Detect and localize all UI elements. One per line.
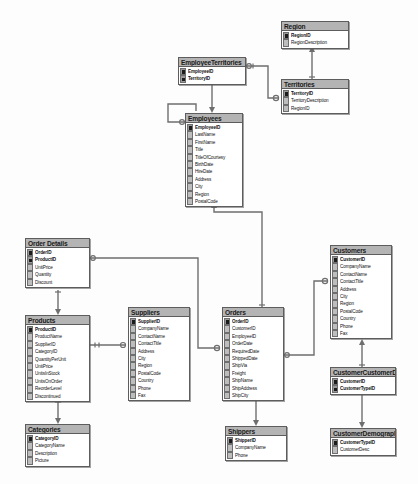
field-row[interactable]: ContactTitle [130,340,188,347]
field-row[interactable]: Country [332,315,390,322]
field-row[interactable]: ProductName [27,333,88,340]
field-row[interactable]: ProductID [27,256,88,263]
field-row[interactable]: UnitsOnOrder [27,378,88,385]
field-row[interactable]: TerritoryID [180,75,244,82]
field-name: Freight [232,370,282,377]
field-row[interactable]: EmployeeID [180,68,244,75]
table-customer_demographics[interactable]: CustomerDemographicsCustomerTypeIDCustom… [330,428,396,456]
table-employee_territories[interactable]: EmployeeTerritoriesEmployeeIDTerritoryID [178,57,246,85]
field-row[interactable]: EmployeeID [187,124,241,131]
field-row[interactable]: CustomerDesc [332,446,394,453]
field-row[interactable]: Phone [227,452,285,459]
table-shippers[interactable]: ShippersShipperIDCompanyNamePhone [225,426,287,461]
field-row[interactable]: UnitsInStock [27,370,88,377]
field-row[interactable]: ContactTitle [332,278,390,285]
field-row[interactable]: City [130,355,188,362]
field-row[interactable]: ShipCity [224,392,282,399]
field-name: PostalCode [195,198,241,205]
field-row[interactable]: CustomerID [332,256,390,263]
connector-customercustomerdemo-customerdemographics [359,392,365,428]
field-row[interactable]: Address [187,176,241,183]
field-row[interactable]: CustomerTypeID [332,439,394,446]
table-products[interactable]: ProductsProductIDProductNameSupplierIDCa… [25,315,90,402]
table-customer_customer_demo[interactable]: CustomerCustomerDemoCustomerIDCustomerTy… [330,367,396,395]
field-row[interactable]: SupplierID [130,318,188,325]
field-row[interactable]: RegionDescription [283,39,347,46]
field-row[interactable]: QuantityPerUnit [27,356,88,363]
table-orders[interactable]: OrdersOrderIDCustomerIDEmployeeIDOrderDa… [222,307,284,401]
table-territories[interactable]: TerritoriesTerritoryIDTerritoryDescripti… [281,79,349,114]
field-row[interactable]: City [187,183,241,190]
field-row[interactable]: RequiredDate [224,348,282,355]
field-row[interactable]: Region [187,191,241,198]
field-row[interactable]: OrderDate [224,340,282,347]
field-name: UnitsOnOrder [35,378,88,385]
table-categories[interactable]: CategoriesCategoryIDCategoryNameDescript… [25,424,90,467]
field-row[interactable]: ShipVia [224,362,282,369]
field-row[interactable]: Phone [130,385,188,392]
field-row[interactable]: LastName [187,131,241,138]
field-row[interactable]: Phone [332,323,390,330]
field-row[interactable]: Address [130,348,188,355]
field-row[interactable]: UnitPrice [27,264,88,271]
table-employees[interactable]: EmployeesEmployeeIDLastNameFirstNameTitl… [185,113,243,207]
field-row[interactable]: CategoryName [27,442,88,449]
field-row[interactable]: ShipAddress [224,385,282,392]
field-row[interactable]: EmployeeID [224,333,282,340]
field-row[interactable]: Freight [224,370,282,377]
field-row[interactable]: CustomerTypeID [332,385,394,392]
field-row[interactable]: OrderID [224,318,282,325]
field-row[interactable]: RegionID [283,105,347,112]
field-row[interactable]: ShippedDate [224,355,282,362]
field-row[interactable]: ShipperID [227,437,285,444]
field-row[interactable]: CustomerID [332,378,394,385]
field-name: CategoryID [35,348,88,355]
table-order_details[interactable]: Order DetailsOrderIDProductIDUnitPriceQu… [25,238,90,288]
field-marker-icon [224,385,230,392]
table-suppliers[interactable]: SuppliersSupplierIDCompanyNameContactNam… [128,307,190,401]
field-row[interactable]: SupplierID [27,341,88,348]
field-row[interactable]: Country [130,377,188,384]
field-row[interactable]: TerritoryID [283,90,347,97]
field-row[interactable]: BirthDate [187,161,241,168]
field-row[interactable]: UnitPrice [27,363,88,370]
field-row[interactable]: TerritoryDescription [283,97,347,104]
field-row[interactable]: CustomerID [224,325,282,332]
field-row[interactable]: HireDate [187,168,241,175]
field-row[interactable]: ShipName [224,377,282,384]
field-row[interactable]: Title [187,146,241,153]
field-row[interactable]: Quantity [27,271,88,278]
primary-key-icon [130,318,136,325]
field-row[interactable]: FirstName [187,139,241,146]
table-region[interactable]: RegionRegionIDRegionDescription [281,21,349,49]
field-row[interactable]: Region [130,362,188,369]
field-row[interactable]: RegionID [283,32,347,39]
field-row[interactable]: Fax [332,330,390,337]
field-row[interactable]: CompanyName [332,263,390,270]
field-row[interactable]: City [332,293,390,300]
field-row[interactable]: Discount [27,279,88,286]
field-row[interactable]: PostalCode [130,370,188,377]
field-row[interactable]: TitleOfCourtesy [187,154,241,161]
field-row[interactable]: CategoryID [27,435,88,442]
field-row[interactable]: CompanyName [130,325,188,332]
field-row[interactable]: PostalCode [187,198,241,205]
field-row[interactable]: OrderID [27,249,88,256]
field-row[interactable]: PostalCode [332,308,390,315]
table-customers[interactable]: CustomersCustomerIDCompanyNameContactNam… [330,245,392,339]
field-row[interactable]: ProductID [27,326,88,333]
field-row[interactable]: Discontinued [27,393,88,400]
field-marker-icon [332,286,338,293]
field-row[interactable]: ContactName [332,271,390,278]
field-row[interactable]: ContactName [130,333,188,340]
field-row[interactable]: Description [27,450,88,457]
field-row[interactable]: Fax [130,392,188,399]
field-marker-icon [27,333,33,340]
field-name: ContactTitle [340,278,390,285]
field-row[interactable]: ReorderLevel [27,385,88,392]
field-row[interactable]: CategoryID [27,348,88,355]
field-row[interactable]: Address [332,286,390,293]
field-row[interactable]: Picture [27,457,88,464]
field-row[interactable]: Region [332,300,390,307]
field-row[interactable]: CompanyName [227,444,285,451]
